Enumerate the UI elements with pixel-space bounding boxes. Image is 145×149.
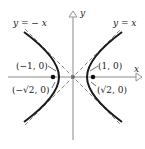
x-axis-arrow-icon (136, 73, 142, 81)
focus-right-point (91, 75, 96, 80)
focus-right-label: (√2, 0) (97, 85, 127, 95)
hyperbola-diagram: y x y = − x y = x (−1, 0) (1, 0) (−√2, 0… (0, 0, 145, 149)
asymptote-label-neg: y = − x (12, 18, 47, 28)
y-axis-arrow-icon (69, 11, 77, 17)
pointer-vertex-right (90, 66, 98, 71)
vertex-left-label: (−1, 0) (16, 61, 48, 71)
pointer-focus-left (52, 82, 55, 88)
pointer-vertex-left (48, 66, 56, 71)
asymptote-label-pos: y = x (112, 18, 136, 28)
focus-left-point (51, 75, 56, 80)
vertex-right-label: (1, 0) (98, 61, 122, 71)
focus-left-label: (−√2, 0) (12, 85, 49, 95)
y-axis-label: y (79, 8, 86, 18)
x-axis-label: x (134, 64, 139, 74)
pointer-focus-right (91, 82, 96, 86)
